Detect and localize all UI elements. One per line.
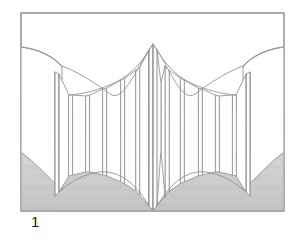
panel-right-6 — [165, 66, 169, 197]
panel-right-5 — [180, 78, 184, 184]
panel-left-5 — [121, 78, 125, 184]
panel-left-2-face — [73, 95, 86, 175]
panel-left-6 — [136, 67, 140, 196]
panel-right-2-face — [219, 95, 232, 175]
panel-right-1 — [246, 72, 250, 196]
panel-left-center — [149, 44, 153, 210]
panel-right-3 — [215, 95, 219, 172]
panel-left-2 — [69, 95, 73, 176]
panel-left-4 — [103, 88, 107, 176]
panel-left-6-face — [140, 50, 149, 206]
panel-left-1-face — [59, 74, 69, 192]
figure-illustration — [0, 0, 305, 240]
panel-right-2 — [232, 95, 236, 176]
panel-right-4 — [198, 88, 202, 176]
panel-right-1-face — [236, 74, 246, 192]
figure-number-label: 1 — [31, 213, 39, 231]
panel-left-3 — [86, 95, 90, 172]
panel-right-3-face — [202, 89, 215, 175]
panel-left-5-face — [125, 70, 136, 191]
panel-right-5-face — [169, 70, 180, 191]
figure-container: 1 — [0, 0, 305, 240]
panel-left-1 — [55, 72, 59, 196]
panel-left-3-face — [90, 89, 103, 175]
